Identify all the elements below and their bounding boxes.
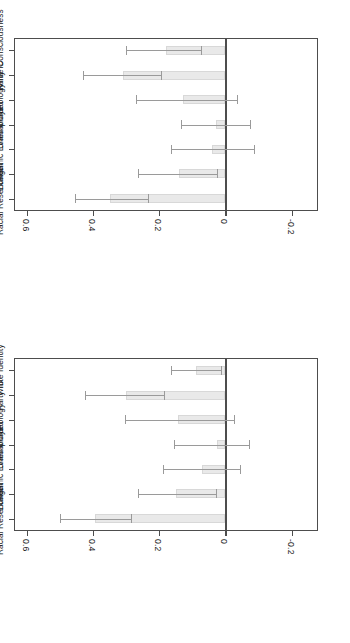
category-tick [9, 149, 14, 150]
category-label-line: Racial Resentment [0, 163, 5, 235]
category-label: Racial Resentment [0, 483, 5, 555]
error-bar-line [83, 75, 161, 76]
axis-tick-label: 0.4 [87, 539, 97, 552]
error-bar-line [171, 149, 254, 150]
error-bar-cap-upper [171, 145, 172, 154]
category-tick [9, 420, 14, 421]
category-tick [9, 75, 14, 76]
error-bar-cap-upper [174, 440, 175, 449]
axis-tick-label: 0.6 [21, 539, 31, 552]
error-bar-line [181, 125, 250, 126]
category-tick [9, 100, 14, 101]
category-tick [9, 199, 14, 200]
error-bar-line [174, 445, 248, 446]
axis-tick [225, 531, 226, 536]
error-bar-line [138, 174, 217, 175]
error-bar-line [126, 50, 200, 51]
axis-tick [93, 211, 94, 216]
axis-tick [27, 211, 28, 216]
axis-tick [159, 211, 160, 216]
axis-tick [159, 531, 160, 536]
category-label: Racial Resentment [0, 163, 5, 235]
error-bar-cap-lower [250, 120, 251, 129]
error-bar-cap-lower [240, 465, 241, 474]
error-bar-cap-lower [161, 71, 162, 80]
category-label-line: Racial Resentment [0, 483, 5, 555]
plot-frame [14, 358, 318, 531]
category-tick [9, 50, 14, 51]
axis-tick-label: -0.2 [286, 539, 296, 555]
category-tick [9, 174, 14, 175]
error-bar-cap-upper [126, 46, 127, 55]
error-bar-cap-lower [164, 391, 165, 400]
error-bar-cap-lower [216, 489, 217, 498]
error-bar-cap-upper [136, 95, 137, 104]
error-bar-line [75, 199, 148, 200]
axis-tick [292, 211, 293, 216]
category-tick [9, 395, 14, 396]
axis-tick [27, 531, 28, 536]
error-bar-cap-lower [234, 415, 235, 424]
error-bar-cap-upper [138, 489, 139, 498]
error-bar-line [138, 494, 216, 495]
category-tick [9, 494, 14, 495]
error-bar-line [85, 395, 164, 396]
axis-tick-label: 0.2 [153, 219, 163, 232]
axis-tick-label: 0.6 [21, 219, 31, 232]
error-bar-cap-lower [148, 194, 149, 203]
error-bar-cap-lower [249, 440, 250, 449]
category-tick [9, 469, 14, 470]
error-bar-cap-lower [217, 169, 218, 178]
axis-tick-label: 0 [219, 539, 229, 544]
error-bar-cap-lower [254, 145, 255, 154]
error-bar-line [163, 469, 241, 470]
error-bar-cap-upper [85, 391, 86, 400]
error-bar-cap-upper [163, 465, 164, 474]
axis-tick [93, 531, 94, 536]
error-bar-cap-lower [221, 366, 222, 375]
error-bar-cap-upper [83, 71, 84, 80]
axis-tick-label: -0.2 [286, 219, 296, 235]
error-bar-cap-upper [75, 194, 76, 203]
axis-tick [225, 211, 226, 216]
plot-frame [14, 38, 318, 211]
axis-tick [292, 531, 293, 536]
error-bar-cap-upper [181, 120, 182, 129]
error-bar-cap-lower [237, 95, 238, 104]
axis-tick-label: 0.4 [87, 219, 97, 232]
category-tick [9, 125, 14, 126]
figure-canvas: -0.200.20.40.6White ConsciousnessParty I… [0, 0, 350, 643]
error-bar-line [171, 370, 221, 371]
category-tick [9, 445, 14, 446]
error-bar-cap-upper [138, 169, 139, 178]
axis-tick-label: 0.2 [153, 539, 163, 552]
category-tick [9, 370, 14, 371]
error-bar-cap-upper [60, 514, 61, 523]
error-bar-line [125, 420, 234, 421]
error-bar-cap-lower [201, 46, 202, 55]
error-bar-cap-upper [125, 415, 126, 424]
error-bar-line [60, 519, 131, 520]
error-bar-cap-upper [171, 366, 172, 375]
error-bar-cap-lower [131, 514, 132, 523]
error-bar-line [136, 100, 237, 101]
category-tick [9, 519, 14, 520]
axis-tick-label: 0 [219, 219, 229, 224]
